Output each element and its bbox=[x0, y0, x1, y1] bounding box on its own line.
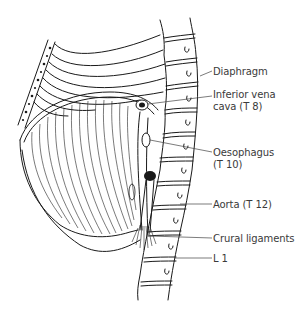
label-aorta: Aorta (T 12) bbox=[213, 199, 272, 210]
crural-ligaments bbox=[132, 225, 156, 250]
label-oesophagus-line2: (T 10) bbox=[213, 159, 242, 170]
label-oesophagus-line1: Oesophagus bbox=[213, 147, 274, 158]
label-diaphragm: Diaphragm bbox=[213, 66, 268, 77]
label-l1: L 1 bbox=[213, 253, 228, 264]
diaphragm-dome bbox=[20, 92, 158, 251]
label-crural-ligaments: Crural ligaments bbox=[213, 233, 294, 244]
label-ivc-line1: Inferior vena bbox=[213, 89, 276, 100]
label-ivc-line2: cava (T 8) bbox=[213, 101, 262, 112]
diaphragm-figure: Diaphragm Inferior vena cava (T 8) Oesop… bbox=[0, 0, 300, 309]
vena-cava bbox=[136, 100, 148, 110]
